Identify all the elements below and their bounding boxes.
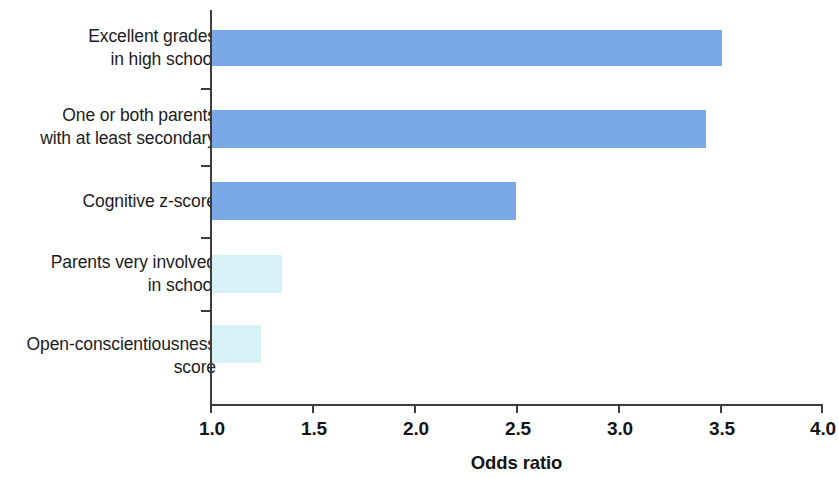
x-axis-tick [210,404,212,413]
x-axis-tick-label: 2.0 [381,418,451,440]
bar-parents-very-involved [212,255,282,293]
plot-area: 1.0 1.5 2.0 2.5 3.0 3.5 4.0 Odds ratio [210,8,824,406]
x-axis-tick [720,404,722,413]
y-axis-tick [201,310,210,312]
x-axis-tick [821,404,823,413]
x-axis-tick-label: 1.5 [279,418,349,440]
bar-parents-secondary [212,110,706,148]
category-label: One or both parents with at least second… [6,104,216,150]
y-axis-tick [201,88,210,90]
bar-cognitive-z-score [212,182,516,220]
category-label: Excellent grades in high school [6,25,216,71]
x-axis-tick [414,404,416,413]
x-axis-tick-label: 3.5 [687,418,757,440]
x-axis-tick-label: 1.0 [177,418,247,440]
category-label: Open-conscientiousness score [6,333,216,379]
x-axis-tick-label: 4.0 [788,418,838,440]
y-axis-tick [201,165,210,167]
odds-ratio-bar-chart: Excellent grades in high school One or b… [0,0,838,478]
x-axis-tick [312,404,314,413]
category-label: Parents very involved in school [6,251,216,297]
x-axis-tick [516,404,518,413]
x-axis-tick [618,404,620,413]
x-axis-tick-label: 2.5 [483,418,553,440]
category-label: Cognitive z-score [6,190,216,213]
x-axis-title: Odds ratio [210,452,823,474]
x-axis-tick-label: 3.0 [585,418,655,440]
bar-open-conscientiousness [212,325,261,363]
bar-excellent-grades [212,30,722,66]
y-axis-tick [201,237,210,239]
